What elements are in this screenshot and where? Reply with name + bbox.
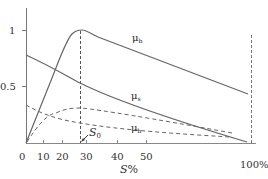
series-mu-b-dashed xyxy=(27,108,232,142)
x-axis-title: S% xyxy=(120,163,138,176)
x-tick-50: 50 xyxy=(140,151,153,162)
x-axis xyxy=(26,140,256,144)
x-tick-10: 10 xyxy=(37,151,50,162)
y-tick-1: 1 xyxy=(9,25,15,36)
x-tick-20: 20 xyxy=(56,151,69,162)
x-tick-30: 30 xyxy=(80,151,93,162)
x-tick-40: 40 xyxy=(111,151,124,162)
x-tick-100: 100% xyxy=(240,159,268,170)
y-tick-0-5: 0.5 xyxy=(0,81,16,92)
label-mu-b: μb xyxy=(132,32,143,44)
s0-label: S0 xyxy=(89,126,101,140)
label-mu-s: μs xyxy=(131,90,141,102)
y-axis xyxy=(22,8,27,144)
label-mu-b-dashed: μb xyxy=(131,122,142,134)
chart: 1 0.5 0 10 20 30 40 50 100% S% S0 μb μs … xyxy=(0,0,268,179)
x-tick-0: 0 xyxy=(19,151,25,162)
series-mu-s-dashed xyxy=(26,105,230,137)
